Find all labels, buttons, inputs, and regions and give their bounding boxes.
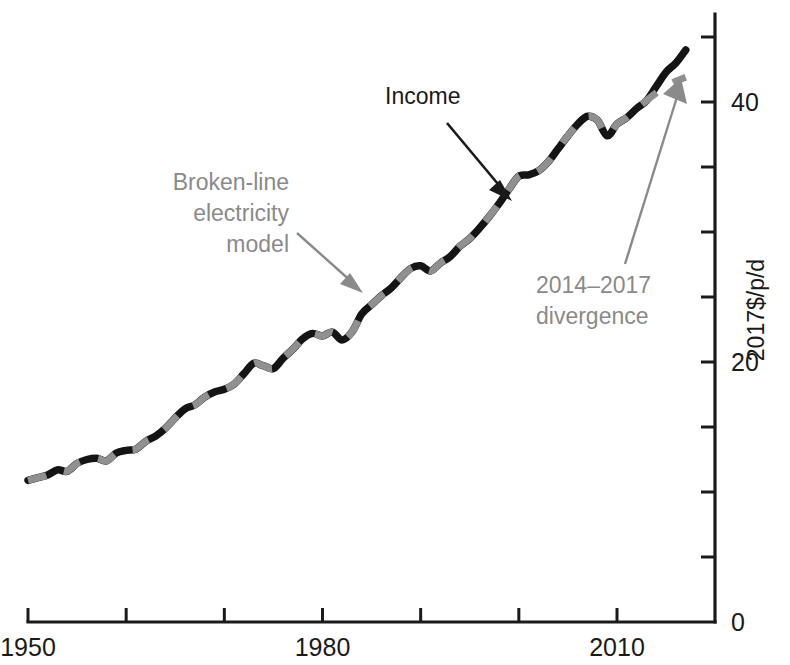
x-axis-tick-labels: 195019802010 <box>0 633 645 661</box>
y-axis-ticks <box>701 37 715 557</box>
annotation-model: Broken-line electricity model <box>173 169 363 293</box>
annotation-income-arrow-shaft <box>447 123 503 190</box>
y-tick-label: 40 <box>731 88 759 116</box>
annotation-divergence-arrow-shaft <box>625 97 677 264</box>
axes: 195019802010 02040 2017$/p/d <box>0 14 769 661</box>
chart-figure: 195019802010 02040 2017$/p/d Income Brok… <box>0 0 790 665</box>
y-axis-title: 2017$/p/d <box>743 259 769 361</box>
annotation-model-arrow-shaft <box>297 233 353 283</box>
income-vs-electricity-model-chart: 195019802010 02040 2017$/p/d Income Brok… <box>0 0 790 665</box>
annotation-divergence-label-line1: 2014–2017 <box>536 272 651 298</box>
x-tick-label: 1950 <box>0 633 56 661</box>
x-tick-label: 1980 <box>295 633 351 661</box>
x-axis-ticks <box>28 608 617 622</box>
x-tick-label: 2010 <box>589 633 645 661</box>
annotation-model-label-line1: Broken-line <box>173 169 289 195</box>
y-tick-label: 0 <box>731 608 745 636</box>
annotation-divergence-label-line2: divergence <box>536 303 649 329</box>
series-line-income <box>28 50 686 480</box>
data-series <box>28 50 686 480</box>
annotation-model-label-line3: model <box>226 231 289 257</box>
annotation-income: Income <box>385 83 512 201</box>
annotation-model-label-line2: electricity <box>193 200 289 226</box>
annotation-divergence: 2014–2017 divergence <box>536 78 687 329</box>
annotations: Income Broken-line electricity model 201… <box>173 78 687 329</box>
annotation-income-label: Income <box>385 83 460 109</box>
